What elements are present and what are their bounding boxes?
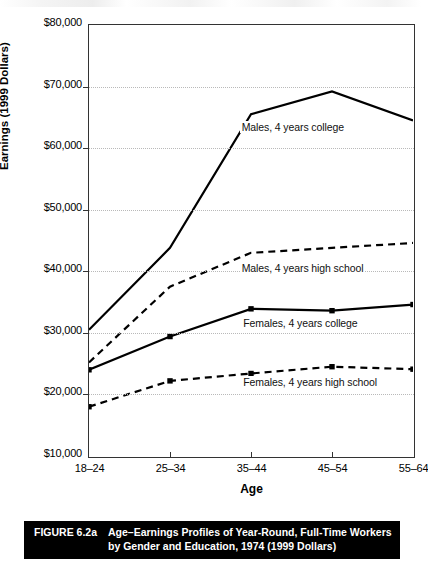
y-tick-label: $10,000 <box>44 447 82 459</box>
series-marker <box>89 404 92 409</box>
x-tick-label: 55–64 <box>399 462 428 474</box>
x-axis-tick <box>170 452 171 457</box>
series-marker <box>89 367 92 372</box>
y-tick-label: $70,000 <box>44 78 82 90</box>
x-axis-tick-labels: 18–2425–3435–4445–5455–64 <box>88 462 415 480</box>
caption-line-2: by Gender and Education, 1974 (1999 Doll… <box>34 540 400 554</box>
figure-caption-bar: FIGURE 6.2aAge–Earnings Profiles of Year… <box>24 521 400 559</box>
series-marker <box>167 334 172 339</box>
y-tick-label: $30,000 <box>44 324 82 336</box>
y-tick-label: $50,000 <box>44 201 82 213</box>
y-axis-tick-labels: $10,000$20,000$30,000$40,000$50,000$60,0… <box>0 24 82 458</box>
series-plot <box>89 25 413 456</box>
y-axis-tick <box>83 87 89 88</box>
series-marker <box>329 308 334 313</box>
series-annotation: Males, 4 years high school <box>240 262 366 274</box>
y-tick-label: $80,000 <box>44 16 82 28</box>
series-annotation: Males, 4 years college <box>240 121 346 133</box>
gridline <box>89 333 414 334</box>
y-tick-label: $40,000 <box>44 262 82 274</box>
y-tick-label: $20,000 <box>44 385 82 397</box>
series-annotation: Females, 4 years college <box>241 317 359 329</box>
y-axis-tick <box>83 394 89 395</box>
x-axis-tick <box>332 452 333 457</box>
series-marker <box>329 364 334 369</box>
caption-line-1: FIGURE 6.2aAge–Earnings Profiles of Year… <box>34 526 400 540</box>
gridline <box>89 210 414 211</box>
series-line <box>89 305 413 370</box>
gridline <box>89 87 414 88</box>
x-tick-label: 35–44 <box>237 462 267 474</box>
series-marker <box>248 306 253 311</box>
plot-area: Males, 4 years collegeMales, 4 years hig… <box>88 24 415 458</box>
y-axis-tick <box>83 148 89 149</box>
y-tick-label: $60,000 <box>44 139 82 151</box>
series-annotation: Females, 4 years high school <box>241 376 379 388</box>
series-marker <box>410 302 413 307</box>
x-tick-label: 25–34 <box>156 462 186 474</box>
caption-text-1: Age–Earnings Profiles of Year-Round, Ful… <box>108 526 392 538</box>
y-axis-tick <box>83 333 89 334</box>
series-marker <box>167 378 172 383</box>
series-marker <box>410 366 413 371</box>
x-axis-title: Age <box>88 482 415 496</box>
gridline <box>89 394 414 395</box>
x-tick-label: 45–54 <box>318 462 348 474</box>
x-tick-label: 18–24 <box>75 462 105 474</box>
gridline <box>89 148 414 149</box>
y-axis-tick <box>83 271 89 272</box>
y-axis-tick <box>83 210 89 211</box>
x-axis-tick <box>251 452 252 457</box>
figure-number: FIGURE 6.2a <box>34 526 108 540</box>
